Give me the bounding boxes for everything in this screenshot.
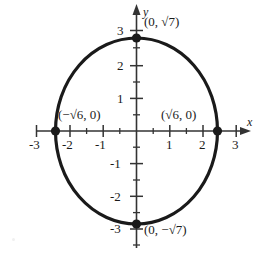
point-right [213, 126, 222, 135]
x-tick-label-neg3: -3 [29, 138, 40, 151]
y-tick-label-2: 2 [117, 59, 124, 72]
label-bottom-point: (0, −√7) [144, 223, 187, 236]
y-tick-label-neg1: -1 [110, 157, 121, 170]
label-right-point: (√6, 0) [161, 108, 196, 121]
label-top-point: (0, √7) [144, 15, 179, 28]
plot-canvas [0, 0, 254, 253]
x-tick-label-3: 3 [232, 138, 239, 151]
label-left-point: (−√6, 0) [58, 108, 101, 121]
x-tick-label-neg2: -2 [62, 138, 73, 151]
y-tick-label-1: 1 [117, 92, 124, 105]
ellipse-figure: y x -3 -2 -1 1 2 3 3 2 1 -1 -2 -3 (0, √7… [0, 0, 254, 253]
y-tick-label-neg2: -2 [110, 190, 121, 203]
x-axis-label: x [247, 116, 252, 128]
scan-speck [12, 238, 15, 241]
point-bottom [132, 219, 141, 228]
point-left [51, 126, 60, 135]
x-tick-label-2: 2 [199, 138, 206, 151]
x-tick-label-neg1: -1 [95, 138, 106, 151]
point-top [132, 33, 141, 42]
y-tick-label-3: 3 [117, 24, 124, 37]
x-tick-label-1: 1 [166, 138, 173, 151]
y-tick-label-neg3: -3 [110, 222, 121, 235]
